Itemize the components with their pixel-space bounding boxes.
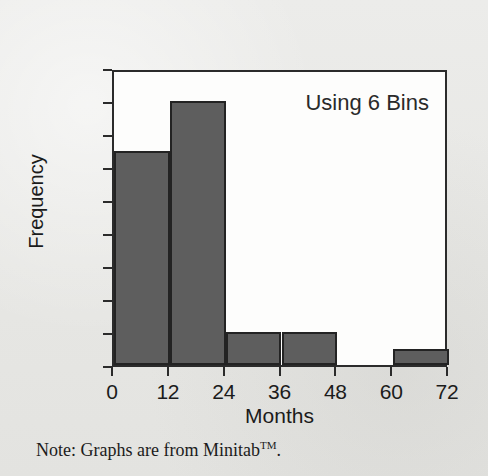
x-axis-tick <box>446 367 448 376</box>
y-axis-tick <box>103 135 112 137</box>
y-axis-tick <box>103 201 112 203</box>
y-axis-tick <box>103 168 112 170</box>
x-axis-tick-label: 12 <box>138 380 198 404</box>
x-axis-title: Months <box>112 404 447 428</box>
histogram-bar <box>226 332 282 365</box>
y-axis-tick <box>103 267 112 269</box>
histogram-figure: Using 6 Bins 024681012141618 01224364860… <box>0 0 488 476</box>
plot-area: Using 6 Bins <box>112 70 447 367</box>
y-axis-tick <box>103 333 112 335</box>
y-axis-tick <box>103 234 112 236</box>
y-axis-tick <box>103 300 112 302</box>
x-axis-tick-label: 72 <box>417 380 477 404</box>
y-axis-tick <box>103 102 112 104</box>
x-axis-tick-label: 60 <box>361 380 421 404</box>
x-axis-tick <box>390 367 392 376</box>
footnote-trademark: TM <box>260 439 277 451</box>
y-axis-title: Frequency <box>25 132 48 272</box>
x-axis-tick-label: 24 <box>194 380 254 404</box>
histogram-bar <box>170 101 226 365</box>
y-axis-tick <box>103 69 112 71</box>
histogram-bar <box>393 349 449 366</box>
x-axis-tick <box>223 367 225 376</box>
plot-annotation-label: Using 6 Bins <box>305 90 429 116</box>
footnote-period: . <box>276 440 281 460</box>
figure-footnote: Note: Graphs are from MinitabTM. <box>36 440 281 461</box>
x-axis-tick <box>279 367 281 376</box>
x-axis-tick <box>111 367 113 376</box>
x-axis-tick <box>167 367 169 376</box>
x-axis-tick-label: 36 <box>250 380 310 404</box>
x-axis-tick-label: 48 <box>305 380 365 404</box>
histogram-bar <box>114 151 170 366</box>
footnote-text: Note: Graphs are from Minitab <box>36 440 260 460</box>
x-axis-tick-label: 0 <box>82 380 142 404</box>
histogram-bar <box>282 332 338 365</box>
x-axis-tick <box>334 367 336 376</box>
